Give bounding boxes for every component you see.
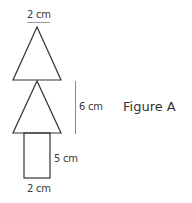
middle-triangle [13,81,61,133]
rect-width-label: 2 cm [27,183,51,194]
triangles-height-label: 6 cm [79,101,103,112]
rect-height-label: 5 cm [54,153,78,164]
figure-title: Figure A [123,99,176,114]
top-triangle [13,27,61,80]
top-width-label: 2 cm [27,9,51,20]
trunk-rectangle [24,133,50,178]
